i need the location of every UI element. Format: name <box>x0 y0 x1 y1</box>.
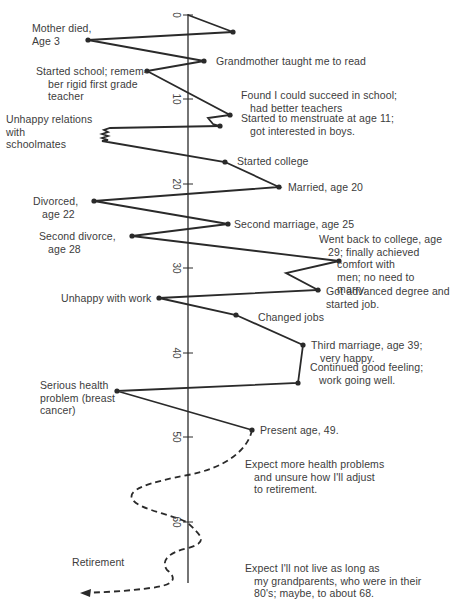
label-grandmother: Grandmother taught me to read <box>216 55 366 68</box>
label-changed-jobs: Changed jobs <box>258 311 324 324</box>
label-started-college: Started college <box>237 155 309 168</box>
label-divorced: Divorced, age 22 <box>33 195 78 220</box>
tick-label-50: 50 <box>171 430 181 444</box>
label-serious-health: Serious health problem (breast cancer) <box>40 379 115 417</box>
tick-label-40: 40 <box>171 346 181 360</box>
tick-label-10: 10 <box>171 92 181 106</box>
label-present-age: Present age, 49. <box>260 424 339 437</box>
label-expect-live: Expect I'll not live as long as my grand… <box>245 562 421 600</box>
label-advanced-degree: Got advanced degree and started job. <box>326 285 450 310</box>
label-found-succeed: Found I could succeed in school; had bet… <box>241 89 397 114</box>
label-retirement: Retirement <box>72 556 124 569</box>
label-second-divorce: Second divorce, age 28 <box>39 230 116 255</box>
label-expect-health: Expect more health problems and unsure h… <box>245 458 384 496</box>
label-mother-died: Mother died, Age 3 <box>32 22 92 47</box>
tick-label-0: 0 <box>171 8 181 22</box>
label-unhappy-work: Unhappy with work <box>61 292 151 305</box>
future-life-line <box>85 430 252 593</box>
label-second-marriage: Second marriage, age 25 <box>234 218 354 231</box>
tick-label-20: 20 <box>171 177 181 191</box>
arrow-head-icon <box>80 589 91 597</box>
tick-label-30: 30 <box>171 261 181 275</box>
label-started-school: Started school; remem- ber rigid first g… <box>36 65 147 103</box>
label-good-feeling: Continued good feeling; work going well. <box>310 361 423 386</box>
tick-label-60: 60 <box>171 515 181 529</box>
label-schoolmates: Unhappy relations with schoolmates <box>6 113 92 151</box>
label-menstruate: Started to menstruate at age 11; got int… <box>241 112 394 137</box>
label-married: Married, age 20 <box>288 181 363 194</box>
